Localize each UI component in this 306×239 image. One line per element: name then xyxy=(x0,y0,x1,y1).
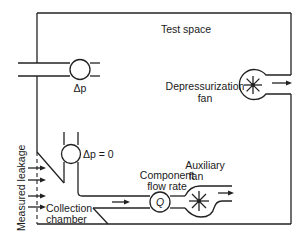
chamber-flow-arrow-icon xyxy=(112,200,130,205)
depressurization-outlet-arrow-icon xyxy=(272,81,292,86)
component-flow-rate-label-line2: flow rate xyxy=(147,180,187,192)
collection-chamber-label-line2: chamber xyxy=(46,213,87,225)
flow-meter-q-label: Q xyxy=(156,196,164,208)
test-space-diagram: Test space Δp Depressurization fan xyxy=(0,0,306,239)
delta-p-meter-icon xyxy=(70,60,90,80)
depressurization-fan-label-line1: Depressurization xyxy=(166,80,245,92)
top-pressure-pipe xyxy=(18,60,100,80)
delta-p-zero-label: Δp = 0 xyxy=(83,148,114,160)
auxiliary-fan-icon xyxy=(185,186,232,217)
depressurization-fan-icon xyxy=(239,70,291,100)
measured-leakage-label: Measured leakage xyxy=(15,144,27,231)
delta-p-label: Δp xyxy=(74,82,87,94)
delta-p-zero-meter-icon xyxy=(62,145,81,164)
zero-pressure-pipe xyxy=(37,132,150,196)
test-space-label: Test space xyxy=(161,23,211,35)
auxiliary-fan-label-line2: fan xyxy=(189,170,204,182)
depressurization-fan-label-line2: fan xyxy=(198,92,213,104)
auxiliary-outlet-arrow-icon xyxy=(218,191,234,196)
